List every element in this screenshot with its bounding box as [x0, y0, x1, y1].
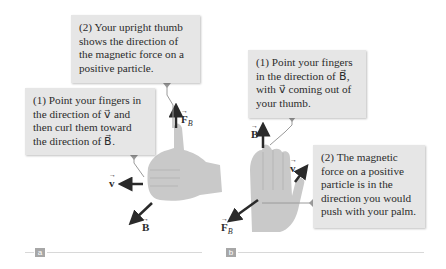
callout-a-step-1: (1) Point your fingers in the direction …: [25, 88, 155, 155]
callout-a-step-1-text: (1) Point your fingers in the direction …: [33, 94, 141, 147]
panel-b-divider: [238, 252, 424, 253]
callout-b-step-1-text: (1) Point your fingers in the direction …: [256, 56, 353, 109]
velocity-vector-label-a: →v: [109, 177, 115, 189]
thumbs-up-hand-icon: [148, 124, 223, 201]
force-vector-label-a: →FB: [181, 113, 193, 128]
force-vector-label-b: →FB: [221, 221, 233, 236]
panel-label-b: b: [226, 248, 236, 257]
panel-a-divider-left: [25, 252, 34, 253]
field-vector-label-a: →B: [142, 221, 149, 233]
field-vector-label-b: →B: [251, 128, 258, 140]
panel-label-a: a: [35, 248, 45, 257]
callout-b-step-1: (1) Point your fingers in the direction …: [248, 50, 366, 118]
velocity-vector-label-b: →v: [290, 162, 296, 174]
callout-a-step-2: (2) Your upright thumb shows the directi…: [71, 15, 200, 83]
callout-b-step-2: (2) The magnetic force on a positive par…: [313, 145, 425, 228]
callout-b-step-2-text: (2) The magnetic force on a positive par…: [321, 151, 416, 217]
callout-a-step-2-text: (2) Your upright thumb shows the directi…: [79, 21, 184, 74]
panel-a-divider: [47, 252, 202, 253]
